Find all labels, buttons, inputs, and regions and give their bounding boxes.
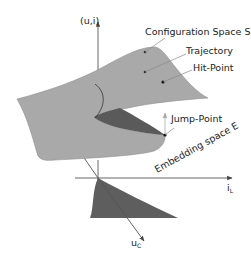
- embedding-space-label: Embedding space E: [153, 120, 240, 175]
- hit-point-label: Hit-Point: [193, 62, 234, 73]
- trajectory-label: Trajectory: [185, 45, 233, 56]
- jump-point-label: Jump-Point: [170, 113, 222, 124]
- leader-jump: [165, 128, 174, 135]
- cusp-catastrophe-diagram: (u,i) Configuration Space S Trajectory H…: [0, 0, 251, 263]
- projection-region: [90, 178, 178, 218]
- depth-axis-label: uC: [131, 237, 141, 249]
- configuration-space-label: Configuration Space S: [145, 26, 250, 37]
- horizontal-axis-label: iL: [227, 182, 234, 194]
- configuration-surface: [17, 47, 208, 160]
- vertical-axis-label: (u,i): [80, 15, 99, 26]
